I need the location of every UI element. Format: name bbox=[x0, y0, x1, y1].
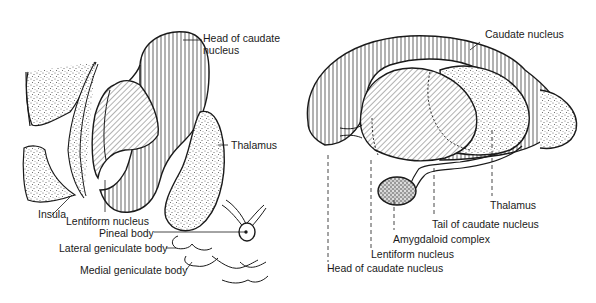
anatomy-figure: Head of caudate nucleus Thalamus Insula … bbox=[0, 0, 596, 303]
label-line-2: nucleus bbox=[203, 44, 280, 56]
label-medial-geniculate-body: Medial geniculate body bbox=[80, 264, 187, 276]
label-lentiform-nucleus-right: Lentiform nucleus bbox=[371, 248, 454, 260]
figure-drawing bbox=[0, 0, 596, 303]
label-lentiform-nucleus-left: Lentiform nucleus bbox=[66, 215, 149, 227]
label-thalamus-right: Thalamus bbox=[490, 199, 536, 211]
label-tail-of-caudate-nucleus: Tail of caudate nucleus bbox=[432, 218, 539, 230]
label-caudate-nucleus: Caudate nucleus bbox=[485, 28, 564, 40]
label-lateral-geniculate-body: Lateral geniculate body bbox=[59, 242, 168, 254]
label-pineal-body: Pineal body bbox=[99, 227, 154, 239]
label-head-of-caudate-nucleus-right: Head of caudate nucleus bbox=[327, 262, 443, 274]
label-thalamus-left: Thalamus bbox=[231, 139, 277, 151]
label-line-1: Head of caudate bbox=[203, 32, 280, 44]
label-insula: Insula bbox=[38, 208, 66, 220]
label-head-of-caudate-nucleus-left: Head of caudate nucleus bbox=[203, 32, 280, 56]
label-amygdaloid-complex: Amygdaloid complex bbox=[393, 233, 490, 245]
